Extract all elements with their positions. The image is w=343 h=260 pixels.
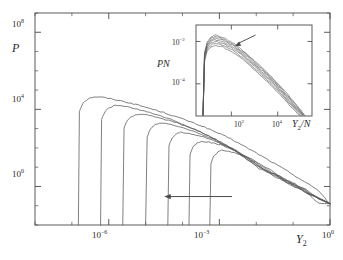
main-xlabel-sub: 2 [303,239,307,248]
insetxtick0-exp: 2 [242,119,244,124]
ytick1-mantissa: 10 [12,94,21,104]
increasing-n-arrow [164,194,232,199]
insetytick1-mantissa: 10 [172,78,180,87]
figure-container: P Y2 108 104 100 10−6 10−3 100 PN Y2/N 1… [0,0,343,260]
main-xlabel-base: Y [296,232,303,246]
xtick1-mantissa: 10 [194,230,203,240]
main-ytick-0: 108 [12,18,24,29]
main-curve [168,132,330,225]
xtick0-mantissa: 10 [92,230,101,240]
inset-xtick-0: 102 [234,119,244,129]
xtick1-exp: −3 [203,229,209,235]
main-xtick-2: 100 [322,229,334,240]
xtick2-mantissa: 10 [322,230,331,240]
insetxtick1-exp: 4 [280,119,282,124]
ytick0-mantissa: 10 [12,19,21,29]
inset-xtick-1: 104 [272,119,282,129]
ytick2-exp: 0 [21,168,24,174]
inset-ytick-1: 10−4 [172,77,185,87]
ytick2-mantissa: 10 [12,169,21,179]
ytick1-exp: 4 [21,93,24,99]
main-xtick-1: 10−3 [194,229,209,240]
main-xtick-0: 10−6 [92,229,107,240]
inset-ylabel: PN [157,58,170,69]
main-ylabel: P [12,41,19,56]
xtick2-exp: 0 [331,229,334,235]
main-curve [146,123,330,225]
main-xlabel: Y2 [296,232,307,248]
main-ytick-1: 104 [12,93,24,104]
inset-xlabel: Y2/N [292,118,310,131]
xtick0-exp: −6 [101,229,107,235]
insetxtick0-mantissa: 10 [234,120,242,129]
insetytick0-exp: −2 [180,37,185,42]
main-ytick-2: 100 [12,168,24,179]
inset-ytick-0: 10−2 [172,37,185,47]
ytick0-exp: 8 [21,18,24,24]
insetxtick1-mantissa: 10 [272,120,280,129]
inset-xlabel-suffix: /N [301,118,310,129]
insetytick1-exp: −4 [180,77,185,82]
insetytick0-mantissa: 10 [172,38,180,47]
